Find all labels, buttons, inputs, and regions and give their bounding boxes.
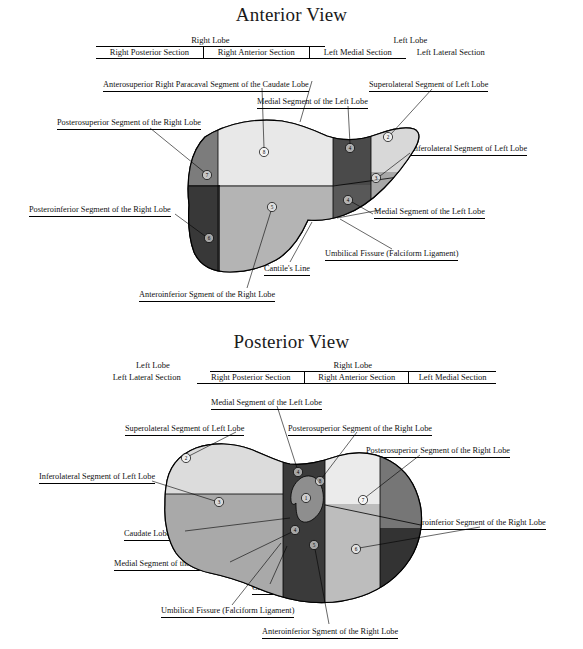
posterior-segment-8-fill	[325, 436, 380, 504]
posterior-segment-7-number: 7	[362, 497, 365, 503]
posterior-segment-4-number: 4	[297, 469, 300, 475]
posterior-segment-1-number: 1	[305, 495, 308, 501]
figure-page: Anterior View Right Lobe Left Lobe Right…	[0, 0, 583, 649]
posterior-leader-segment-4	[277, 406, 297, 468]
posterior-segment-2-number: 2	[185, 455, 188, 461]
posterior-segment-5-number: 5	[313, 542, 316, 548]
posterior-segment-8-number: 8	[319, 478, 322, 484]
posterior-segment-4-inferior-number: 4	[294, 527, 297, 533]
posterior-segment-6-fill	[380, 528, 435, 620]
posterior-segment-3-number: 3	[218, 499, 221, 505]
posterior-segment-4-fill	[283, 436, 325, 616]
posterior-segment-7-fill	[380, 436, 435, 528]
posterior-segment-2-fill	[158, 436, 283, 494]
posterior-segment-6-number: 6	[355, 546, 358, 552]
posterior-liver-illustration: 2 4 1 8 7 3 4 5 6	[0, 0, 583, 649]
